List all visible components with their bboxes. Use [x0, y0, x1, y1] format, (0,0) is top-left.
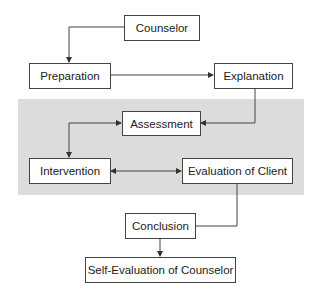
- node-label: Counselor: [136, 22, 188, 34]
- node-label: Evaluation of Client: [188, 165, 287, 177]
- node-label: Assessment: [130, 118, 193, 130]
- node-self-evaluation: Self-Evaluation of Counselor: [85, 257, 236, 283]
- node-evaluation-of-client: Evaluation of Client: [182, 158, 293, 184]
- node-conclusion: Conclusion: [125, 213, 196, 239]
- node-label: Self-Evaluation of Counselor: [88, 264, 234, 276]
- node-label: Conclusion: [132, 220, 189, 232]
- node-label: Intervention: [40, 165, 100, 177]
- node-assessment: Assessment: [122, 111, 201, 136]
- node-preparation: Preparation: [29, 63, 111, 89]
- node-explanation: Explanation: [214, 63, 293, 89]
- node-label: Explanation: [223, 70, 283, 82]
- node-intervention: Intervention: [29, 158, 111, 184]
- flowchart: Counselor Preparation Explanation Assess…: [0, 0, 316, 293]
- node-label: Preparation: [40, 70, 99, 82]
- node-counselor: Counselor: [124, 15, 200, 41]
- connector-arrows: [0, 0, 316, 293]
